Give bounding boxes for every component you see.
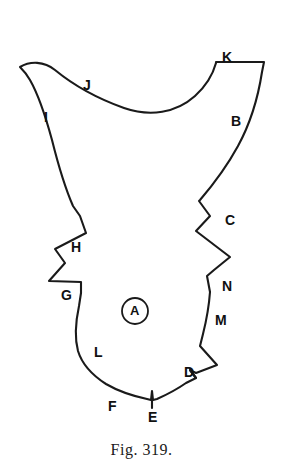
label-c: C [225,213,235,227]
label-l: L [94,345,103,359]
label-d: D [184,365,194,379]
label-b: B [231,114,241,128]
label-f: F [108,399,117,413]
label-i: I [44,110,48,124]
label-n: N [222,279,232,293]
label-k: K [222,50,232,64]
label-a: A [130,304,139,317]
label-m: M [215,313,227,327]
label-g: G [61,288,72,302]
outline-shape-path [20,62,264,400]
figure-container: A B C D E F G H I J K L M N Fig. 319. [0,0,283,475]
figure-caption: Fig. 319. [0,441,283,459]
anatomical-outline-diagram [0,0,283,475]
label-e: E [148,410,157,424]
label-h: H [71,240,81,254]
label-j: J [83,78,91,92]
